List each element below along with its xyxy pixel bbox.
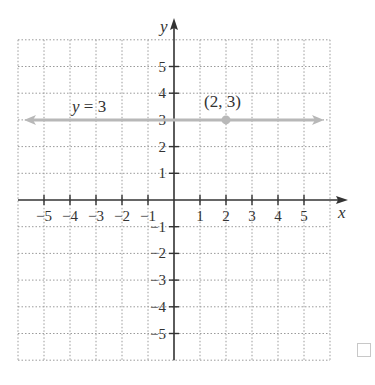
y-tick-label: 5 <box>159 59 167 75</box>
x-axis-label: x <box>337 203 346 222</box>
y-tick-label: −4 <box>150 299 166 315</box>
x-tick-label: −2 <box>114 208 130 224</box>
line-equation-label: y = 3 <box>70 97 106 116</box>
y-tick-label: −5 <box>150 326 166 342</box>
y-tick-label: 1 <box>159 165 167 181</box>
y-tick-label: 4 <box>159 85 167 101</box>
x-tick-label: −4 <box>62 208 78 224</box>
x-tick-label: 4 <box>274 208 282 224</box>
coordinate-plane: −5−4−3−2−11234554321−1−2−3−4−5 x y y = 3… <box>0 0 375 385</box>
x-tick-label: 3 <box>248 208 256 224</box>
y-tick-label: −3 <box>150 272 166 288</box>
x-tick-label: −5 <box>36 208 52 224</box>
y-tick-label: −1 <box>150 219 166 235</box>
x-tick-label: 1 <box>196 208 204 224</box>
line-equation-rest: = 3 <box>80 97 107 116</box>
x-tick-label: −3 <box>88 208 104 224</box>
line-equation-var: y <box>70 97 80 116</box>
axes <box>18 18 348 360</box>
x-tick-label: 2 <box>222 208 230 224</box>
point-label: (2, 3) <box>204 92 241 111</box>
y-tick-label: −2 <box>150 245 166 261</box>
y-tick-label: 2 <box>159 139 167 155</box>
x-tick-label: 5 <box>300 208 308 224</box>
y-axis-label: y <box>158 17 168 36</box>
checkbox[interactable] <box>357 343 371 357</box>
point-marker <box>222 115 231 124</box>
